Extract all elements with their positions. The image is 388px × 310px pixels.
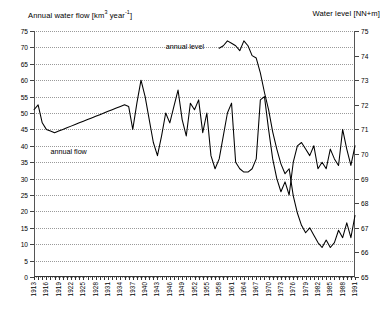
x-axis-tick-label: 1988 (340, 282, 346, 296)
x-axis-tick (343, 277, 344, 280)
x-axis-tick-label: 1937 (130, 282, 136, 296)
y2-axis-tick-label: 75 (361, 28, 368, 35)
y2-axis-tick-label: 67 (361, 224, 368, 231)
y-axis-tick (30, 113, 34, 114)
y-axis-tick (30, 162, 34, 163)
y2-axis-tick-label: 72 (361, 101, 368, 108)
x-axis-tick (50, 277, 51, 280)
x-axis-tick (178, 277, 179, 280)
x-axis-tick-label: 1979 (303, 282, 309, 296)
x-axis-tick (248, 277, 249, 280)
x-axis-tick (112, 277, 113, 280)
y2-axis-tick-label: 69 (361, 175, 368, 182)
y-axis-tick (30, 211, 34, 212)
y-axis-tick-label: 0 (24, 274, 28, 281)
x-axis-tick-label: 1961 (229, 282, 235, 296)
annotation-annual-level: annual level (166, 42, 204, 51)
y2-axis-tick (355, 203, 359, 204)
x-axis-tick (334, 277, 335, 280)
x-axis-tick-label: 1916 (43, 282, 49, 296)
x-axis-tick-label: 1943 (154, 282, 160, 296)
x-axis-tick-label: 1982 (315, 282, 321, 296)
x-axis-tick (137, 277, 138, 280)
y-axis-tick-label: 55 (21, 93, 28, 100)
x-axis-tick (252, 277, 253, 280)
x-axis-tick (55, 277, 56, 280)
x-axis-tick-label: 1955 (204, 282, 210, 296)
x-axis-tick (186, 277, 187, 280)
x-axis-tick (223, 277, 224, 280)
x-axis-tick (100, 277, 101, 280)
x-axis-tick (162, 277, 163, 280)
x-axis-tick (88, 277, 89, 280)
y2-axis-tick-label: 74 (361, 52, 368, 59)
y-axis-tick-label: 30 (21, 175, 28, 182)
x-axis-tick (190, 277, 191, 280)
x-axis-tick (244, 277, 245, 280)
x-axis-tick (75, 277, 76, 280)
x-axis-tick (83, 277, 84, 280)
x-axis-tick (149, 277, 150, 280)
x-axis-tick (157, 277, 158, 280)
x-axis-tick (227, 277, 228, 280)
x-axis-tick (170, 277, 171, 280)
y-axis-tick-label: 5 (24, 257, 28, 264)
series-annual-flow (34, 80, 355, 195)
y-axis-tick-label: 20 (21, 208, 28, 215)
y-axis-tick (30, 195, 34, 196)
x-axis-tick-label: 1931 (105, 282, 111, 296)
y2-axis-tick (355, 228, 359, 229)
x-axis-tick (314, 277, 315, 280)
x-axis-tick (322, 277, 323, 280)
y-axis-tick (30, 179, 34, 180)
x-axis-tick (355, 277, 356, 280)
x-axis-tick (63, 277, 64, 280)
x-axis-tick-label: 1922 (68, 282, 74, 296)
x-axis-tick (71, 277, 72, 280)
x-axis-tick (285, 277, 286, 280)
x-axis-tick-label: 1949 (179, 282, 185, 296)
y2-axis-tick-label: 70 (361, 151, 368, 158)
left-axis-title-mid: year (108, 11, 125, 20)
x-axis-tick (211, 277, 212, 280)
x-axis-tick-label: 1928 (93, 282, 99, 296)
y-axis-tick (30, 47, 34, 48)
right-axis-title: Water level [NN+m] (312, 9, 380, 18)
left-axis-title-end: ] (130, 11, 132, 20)
x-axis-tick (153, 277, 154, 280)
x-axis-tick-label: 1958 (216, 282, 222, 296)
x-axis-tick (281, 277, 282, 280)
x-axis-tick (46, 277, 47, 280)
x-axis-tick (264, 277, 265, 280)
y2-axis-tick (355, 252, 359, 253)
x-axis-tick (133, 277, 134, 280)
x-axis-tick (96, 277, 97, 280)
x-axis-tick-label: 1946 (167, 282, 173, 296)
x-axis-tick (306, 277, 307, 280)
x-axis-tick-label: 1964 (241, 282, 247, 296)
y-axis-tick-label: 25 (21, 192, 28, 199)
y-axis-tick (30, 146, 34, 147)
y2-axis-tick (355, 80, 359, 81)
y-axis-tick-label: 10 (21, 241, 28, 248)
x-axis-tick-label: 1976 (290, 282, 296, 296)
y-axis-tick (30, 244, 34, 245)
x-axis-tick (351, 277, 352, 280)
x-axis-tick-label: 1991 (352, 282, 358, 296)
x-axis-tick (236, 277, 237, 280)
y-axis-tick-label: 70 (21, 44, 28, 51)
y2-axis-tick-label: 66 (361, 249, 368, 256)
y-axis-tick-label: 75 (21, 28, 28, 35)
x-axis-tick (38, 277, 39, 280)
x-axis-tick-label: 1973 (278, 282, 284, 296)
x-axis-tick-label: 1940 (142, 282, 148, 296)
x-axis-tick-label: 1934 (117, 282, 123, 296)
y-axis-tick (30, 97, 34, 98)
y-axis-tick (30, 228, 34, 229)
x-axis-tick-label: 1970 (266, 282, 272, 296)
x-axis-tick (120, 277, 121, 280)
x-axis-tick-label: 1925 (80, 282, 86, 296)
x-axis-tick (203, 277, 204, 280)
y-axis-tick (30, 31, 34, 32)
x-axis-tick (277, 277, 278, 280)
